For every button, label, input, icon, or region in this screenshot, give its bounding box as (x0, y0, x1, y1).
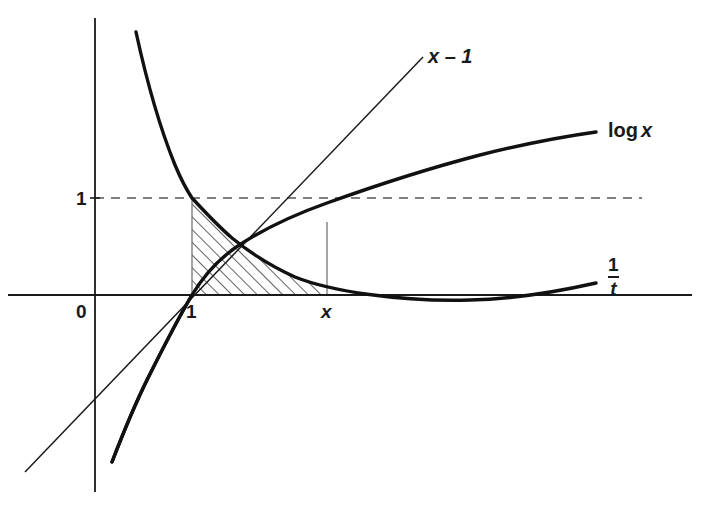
axis-label-x-one: 1 (186, 302, 197, 321)
fraction-numerator: 1 (608, 255, 619, 275)
figure-canvas (0, 0, 708, 524)
axis-label-origin: 0 (76, 302, 87, 321)
fraction-denominator: t (608, 279, 619, 299)
curve-label-log-prefix: log (608, 119, 638, 141)
curve-label-one-over-t: 1 t (608, 255, 619, 299)
axis-label-x-point: x (321, 302, 332, 321)
curve-label-x-minus-one: x – 1 (428, 46, 472, 66)
math-figure: 0 1 x 1 x – 1 logx 1 t (0, 0, 708, 524)
curve-label-x-minus-one-text: x – 1 (428, 45, 472, 67)
curve-label-log-x: logx (608, 120, 652, 140)
axis-label-y-one: 1 (76, 189, 87, 208)
curve-label-log-var: x (641, 119, 652, 141)
